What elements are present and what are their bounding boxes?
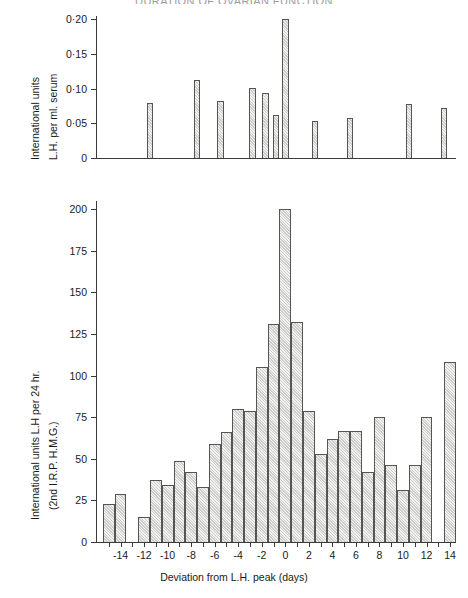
bottom-y-tick-label: 175: [51, 246, 87, 256]
top-y-tick-label: 0·15: [51, 49, 87, 59]
bar: [282, 19, 288, 158]
bar: [441, 108, 447, 158]
bottom-x-tick: [379, 543, 380, 547]
bar: [338, 431, 350, 542]
bar: [185, 472, 197, 542]
bar: [103, 504, 115, 542]
bottom-x-tick: [156, 543, 157, 547]
bottom-x-tick: [191, 543, 192, 547]
bar: [268, 324, 280, 542]
bar: [291, 322, 303, 542]
bottom-y-tick-label: 200: [51, 204, 87, 214]
bottom-x-tick: [144, 543, 145, 547]
bar: [327, 439, 339, 542]
bar: [147, 103, 153, 158]
bottom-y-tick-label: 100: [51, 371, 87, 381]
bar: [221, 432, 233, 542]
bar: [209, 444, 221, 542]
top-y-tick-label: 0·20: [51, 14, 87, 24]
bottom-x-tick: [427, 543, 428, 547]
bottom-plot-area: [97, 201, 456, 542]
bar: [347, 118, 353, 158]
bar: [217, 101, 223, 158]
bar: [385, 465, 397, 542]
bottom-x-tick: [321, 543, 322, 547]
bar: [194, 80, 200, 158]
bottom-x-tick: [415, 543, 416, 547]
bottom-x-tick: [438, 543, 439, 547]
bar: [138, 517, 150, 542]
bar: [174, 461, 186, 543]
bottom-x-tick: [403, 543, 404, 547]
top-ylabel-line1: International units: [29, 77, 41, 160]
bottom-y-tick-label: 50: [51, 454, 87, 464]
urinary-lh-chart: International units L.H per 24 hr. (2nd …: [0, 190, 468, 598]
bottom-y-tick-label: 75: [51, 412, 87, 422]
bar: [409, 465, 421, 542]
top-x-axis-line: [96, 158, 456, 159]
bottom-y-tick-label: 25: [51, 495, 87, 505]
bottom-x-tick: [309, 543, 310, 547]
top-y-tick-label: 0: [51, 153, 87, 163]
bar: [315, 454, 327, 542]
bar: [249, 88, 255, 158]
bottom-x-axis-line: [96, 542, 456, 543]
bottom-x-tick: [391, 543, 392, 547]
bottom-x-tick: [250, 543, 251, 547]
bar: [256, 367, 268, 542]
top-y-tick-label: 0·05: [51, 118, 87, 128]
bar: [197, 487, 209, 542]
bottom-x-tick: [332, 543, 333, 547]
bottom-x-tick: [121, 543, 122, 547]
bottom-x-tick: [344, 543, 345, 547]
bottom-x-tick: [215, 543, 216, 547]
bar: [362, 472, 374, 542]
x-axis-title: Deviation from L.H. peak (days): [0, 571, 468, 583]
bottom-x-tick: [356, 543, 357, 547]
bottom-x-tick: [262, 543, 263, 547]
bottom-y-tick-label: 0: [51, 537, 87, 547]
bar: [262, 93, 268, 158]
bottom-x-tick: [274, 543, 275, 547]
bar: [162, 485, 174, 542]
bar: [444, 362, 456, 542]
bar: [374, 417, 386, 542]
bar: [273, 115, 279, 158]
bar: [397, 490, 409, 542]
bar: [232, 409, 244, 542]
bottom-y-tick-label: 125: [51, 329, 87, 339]
bottom-y-tick-label: 150: [51, 287, 87, 297]
bar: [115, 494, 127, 542]
bar: [150, 480, 162, 542]
bottom-x-tick: [450, 543, 451, 547]
bottom-x-tick: [238, 543, 239, 547]
figure-root: DURATION OF OVARIAN FUNCTION Internation…: [0, 0, 468, 598]
top-plot-area: [97, 16, 456, 158]
bar: [406, 104, 412, 158]
bottom-x-tick: [132, 543, 133, 547]
bottom-x-tick: [109, 543, 110, 547]
serum-lh-chart: International units L.H. per ml. serum 0…: [0, 0, 468, 180]
bottom-x-tick: [368, 543, 369, 547]
bottom-x-tick: [226, 543, 227, 547]
bottom-x-tick: [203, 543, 204, 547]
bar: [303, 411, 315, 542]
bottom-ylabel-line1: International units L.H per 24 hr.: [29, 371, 41, 520]
bar: [421, 417, 433, 542]
bottom-x-tick: [168, 543, 169, 547]
bottom-x-tick: [297, 543, 298, 547]
bottom-x-tick: [285, 543, 286, 547]
bar: [312, 121, 318, 158]
bar: [350, 431, 362, 542]
bottom-x-tick: [179, 543, 180, 547]
bottom-x-tick-label: 14: [436, 550, 464, 561]
bar: [279, 209, 291, 542]
bar: [244, 411, 256, 542]
top-y-tick-label: 0·10: [51, 84, 87, 94]
